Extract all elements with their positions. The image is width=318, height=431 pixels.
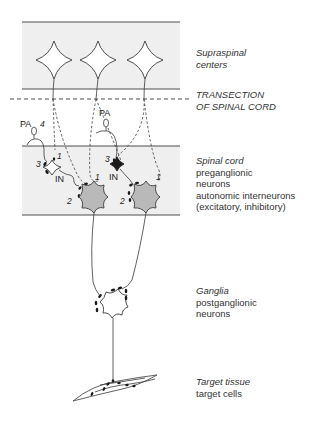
transection-line2: OF SPINAL CORD — [196, 101, 276, 113]
autonomic-pathway-diagram: PA 4 PA 3 1 IN 1 2 3 IN 1 2 — [0, 0, 318, 431]
ganglia-label: Ganglia postganglionic neurons — [196, 285, 257, 320]
spinal-cord-title: Spinal cord — [196, 155, 295, 167]
supraspinal-title: Supraspinal — [196, 47, 246, 59]
marker-2-right: 2 — [119, 196, 125, 206]
marker-4: 4 — [40, 119, 45, 129]
target-tissue — [73, 375, 157, 401]
ganglia-title: Ganglia — [196, 285, 257, 297]
preganglionic-axons — [92, 213, 146, 296]
preganglionic-neuron-left — [79, 181, 108, 213]
target-title: Target tissue — [196, 376, 250, 388]
marker-3-right: 3 — [105, 154, 110, 164]
spinal-cord-line-1: preganglionic — [196, 167, 295, 179]
transection-line1: TRANSECTION — [196, 89, 276, 101]
marker-3-left: 3 — [36, 159, 41, 169]
supraspinal-label: Supraspinal centers — [196, 47, 246, 70]
spinal-cord-label: Spinal cord preganglionic neurons autono… — [196, 155, 295, 213]
ganglia-line-1: postganglionic — [196, 297, 257, 309]
spinal-cord-line-3: autonomic interneurons — [196, 190, 295, 202]
in-right-label: IN — [109, 172, 118, 182]
postganglionic-neuron — [100, 289, 128, 318]
marker-2-left: 2 — [66, 196, 72, 206]
supraspinal-neurons — [36, 41, 163, 79]
spinal-cord-line-2: neurons — [196, 178, 295, 190]
target-line-1: target cells — [196, 388, 250, 400]
pa-right-label: PA — [99, 108, 110, 118]
marker-1-left-pg: 1 — [95, 172, 100, 182]
target-boutons — [90, 379, 136, 396]
ganglia-line-2: neurons — [196, 308, 257, 320]
supraspinal-subtitle: centers — [196, 59, 246, 71]
target-label: Target tissue target cells — [196, 376, 250, 399]
marker-1-right-pg: 1 — [156, 172, 161, 182]
spinal-cord-line-4: (excitatory, inhibitory) — [196, 201, 295, 213]
pa-left-label: PA — [20, 119, 31, 129]
in-left-label: IN — [55, 174, 64, 184]
transection-label: TRANSECTION OF SPINAL CORD — [196, 89, 276, 112]
marker-1-left-in: 1 — [57, 151, 62, 161]
preganglionic-neuron-right — [131, 181, 160, 213]
